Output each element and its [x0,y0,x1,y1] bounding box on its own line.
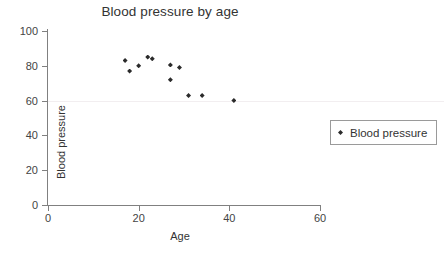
data-point [123,58,128,63]
x-tick-label: 60 [305,212,335,224]
y-tick [42,135,47,136]
y-tick-label: 0 [4,200,38,210]
data-point [177,65,182,70]
x-tick-label: 20 [124,212,154,224]
y-tick-label: 60 [4,96,38,106]
data-point [186,93,191,98]
x-tick [229,206,230,211]
data-point [200,93,205,98]
x-tick-label: 40 [214,212,244,224]
y-tick-label: 40 [4,130,38,140]
data-point [145,55,150,60]
y-tick [42,31,47,32]
legend-marker-icon [338,130,343,135]
y-tick [42,205,47,206]
data-point [150,56,155,61]
chart-title: Blood pressure by age [0,4,340,19]
x-axis-line [47,205,321,206]
x-axis-title: Age [120,230,240,242]
data-point [127,69,132,74]
y-axis-title: Blood pressure [55,82,67,202]
x-tick [320,206,321,211]
legend-item-label: Blood pressure [350,127,427,139]
y-tick-label: 100 [4,26,38,36]
chart-container: Blood pressure by age 020406080100 02040… [0,0,446,254]
data-point [168,62,173,67]
chart-legend: Blood pressure [330,120,437,145]
y-tick [42,66,47,67]
x-tick [48,206,49,211]
data-point [168,77,173,82]
y-tick [42,170,47,171]
y-tick-label: 80 [4,61,38,71]
x-tick [139,206,140,211]
y-tick [42,101,47,102]
plot-area: Blood pressure [48,31,320,205]
data-point [136,63,141,68]
x-tick-label: 0 [33,212,63,224]
data-point [231,98,236,103]
y-tick-label: 20 [4,165,38,175]
